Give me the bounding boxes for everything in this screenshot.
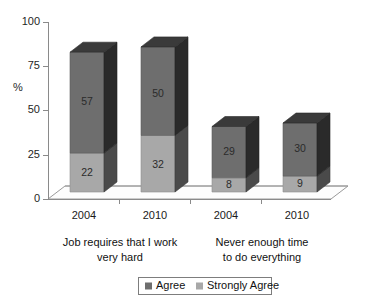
y-tick-label-75: 75 (28, 59, 40, 71)
group-label-2-line2: to do everything (223, 251, 301, 263)
bar-3-agree-side (246, 117, 259, 178)
bar-4-agree-value: 30 (294, 142, 306, 154)
bar-1-strongly-agree-value: 22 (81, 166, 93, 178)
bar-group-3[interactable]: 29 8 (212, 117, 259, 193)
bar-4-strongly-agree-value: 9 (297, 177, 303, 189)
bar-group-1[interactable]: 57 22 (70, 42, 117, 192)
x-axis: 2004 2010 2004 2010 (48, 199, 331, 221)
chart-legend[interactable]: Agree Strongly Agree (138, 277, 279, 294)
y-axis-title: % (13, 81, 23, 93)
legend-swatch-agree-icon (145, 283, 152, 290)
bar-1-agree-value: 57 (81, 95, 93, 107)
x-category-label-1: 2004 (72, 209, 96, 221)
bar-2-strongly-agree-value: 32 (152, 158, 164, 170)
bar-2-agree-value: 50 (152, 87, 164, 99)
legend-label-agree: Agree (156, 279, 185, 291)
x-category-label-4: 2010 (285, 209, 309, 221)
y-tick-label-25: 25 (28, 148, 40, 160)
legend-swatch-strongly-agree-icon (196, 283, 203, 290)
chart-container: 100 75 50 25 0 % 57 22 50 (0, 0, 370, 306)
bar-4-agree-side (317, 113, 330, 176)
bar-2-agree-side (175, 37, 188, 135)
group-label-2-line1: Never enough time (216, 236, 309, 248)
bar-2-strongly-agree-side (175, 125, 188, 192)
x-category-label-3: 2004 (214, 209, 238, 221)
x-category-label-2: 2010 (143, 209, 167, 221)
y-tick-label-0: 0 (34, 192, 40, 204)
group-label-1-line1: Job requires that I work (63, 236, 178, 248)
group-labels: Job requires that I work very hard Never… (63, 236, 309, 263)
group-label-1-line2: very hard (97, 251, 143, 263)
legend-label-strongly-agree: Strongly Agree (207, 279, 279, 291)
bar-group-2[interactable]: 50 32 (141, 37, 188, 192)
bar-3-agree-value: 29 (223, 145, 235, 157)
y-axis: 100 75 50 25 0 % (13, 15, 48, 204)
bar-group-4[interactable]: 30 9 (283, 113, 330, 192)
y-tick-label-100: 100 (22, 15, 40, 27)
y-tick-label-50: 50 (28, 103, 40, 115)
stacked-column-chart: 100 75 50 25 0 % 57 22 50 (0, 0, 370, 306)
bar-1-agree-side (104, 42, 117, 153)
bar-3-strongly-agree-value: 8 (226, 178, 232, 190)
